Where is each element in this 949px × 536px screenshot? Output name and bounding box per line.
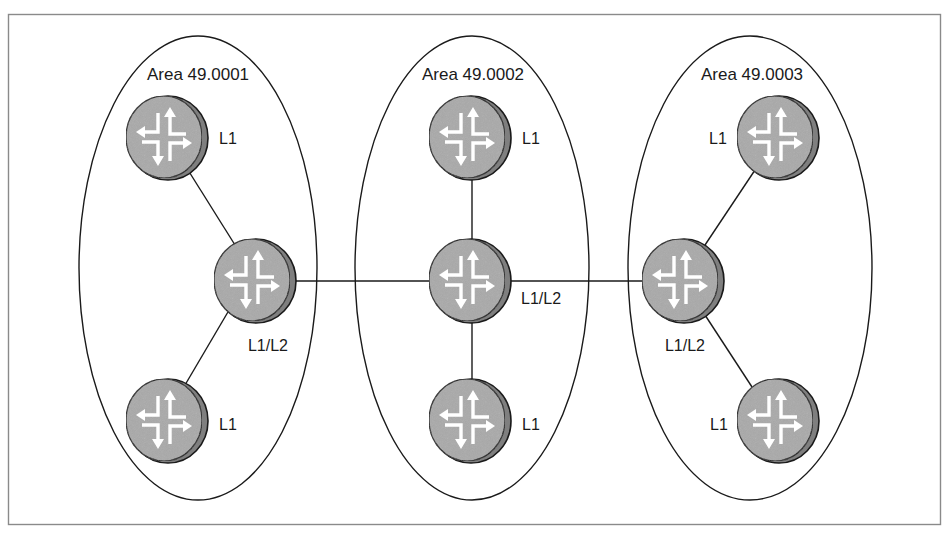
router-level-a1-top: L1	[219, 130, 237, 147]
router-level-a3-bottom: L1	[710, 416, 728, 433]
router-icon-a2-core	[429, 239, 511, 323]
router-level-a2-core: L1/L2	[521, 290, 561, 307]
link-a3-core-a3-bottom	[705, 315, 752, 387]
router-level-a3-top: L1	[709, 130, 727, 147]
router-level-a1-core: L1/L2	[248, 337, 288, 354]
router-icon-a3-core	[642, 239, 724, 323]
router-icon-a1-bottom	[126, 379, 208, 463]
router-icon-a1-core	[214, 239, 296, 323]
area-label-49-0002: Area 49.0002	[422, 65, 524, 84]
router-level-a1-bottom: L1	[219, 416, 237, 433]
router-icon-a1-top	[126, 96, 208, 180]
area-label-49-0003: Area 49.0003	[701, 65, 803, 84]
link-a3-core-a3-top	[705, 170, 755, 245]
area-label-49-0001: Area 49.0001	[147, 65, 249, 84]
router-icon-a2-top	[429, 96, 511, 180]
router-level-a2-top: L1	[522, 130, 540, 147]
link-a1-top-a1-core	[188, 170, 235, 245]
router-icon-a3-top	[737, 96, 819, 180]
link-a1-core-a1-bottom	[185, 300, 235, 385]
router-level-a2-bottom: L1	[522, 416, 540, 433]
router-icon-a3-bottom	[737, 379, 819, 463]
router-icon-a2-bottom	[429, 379, 511, 463]
isis-topology-diagram: Area 49.0001 Area 49.0002 Area 49.0003 L…	[0, 0, 949, 536]
router-level-a3-core: L1/L2	[665, 337, 705, 354]
